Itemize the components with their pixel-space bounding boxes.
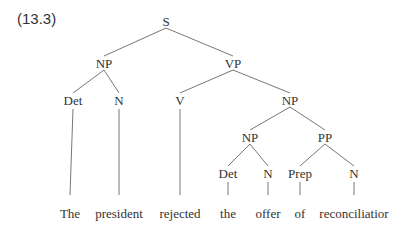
node-n2: N bbox=[263, 167, 272, 180]
edge-np2-pp bbox=[290, 107, 325, 130]
node-n3: N bbox=[349, 167, 358, 180]
edge-pp-n3 bbox=[325, 144, 354, 166]
node-n1: N bbox=[114, 94, 123, 107]
syntax-tree-diagram: (13.3) SNPVPDetNVNPNPPPDetNPrepNThepresi… bbox=[0, 0, 409, 233]
node-prep: Prep bbox=[288, 167, 312, 180]
leaf-edge bbox=[70, 109, 73, 195]
node-det1: Det bbox=[64, 94, 83, 107]
edge-np1-det1 bbox=[73, 70, 104, 93]
edge-np1-n1 bbox=[104, 70, 119, 93]
node-np2: NP bbox=[282, 94, 299, 107]
edge-np3-n2 bbox=[250, 144, 268, 166]
edge-s-np1 bbox=[104, 28, 166, 56]
edge-np2-np3 bbox=[250, 107, 290, 130]
leaf-word: president bbox=[95, 207, 143, 220]
node-np3: NP bbox=[242, 131, 259, 144]
node-s: S bbox=[162, 15, 169, 28]
leaf-word: reconciliatior bbox=[319, 207, 388, 220]
node-vp: VP bbox=[225, 57, 242, 70]
node-det2: Det bbox=[219, 167, 238, 180]
leaf-word: of bbox=[295, 207, 306, 220]
edge-pp-prep bbox=[300, 144, 325, 166]
node-pp: PP bbox=[318, 131, 332, 144]
node-np1: NP bbox=[96, 57, 113, 70]
node-v: V bbox=[175, 94, 184, 107]
leaf-word: The bbox=[60, 207, 80, 220]
edge-vp-v bbox=[180, 70, 233, 93]
edge-np3-det2 bbox=[228, 144, 250, 166]
leaf-word: the bbox=[220, 207, 236, 220]
edge-vp-np2 bbox=[233, 70, 290, 93]
leaf-word: offer bbox=[255, 207, 280, 220]
example-number: (13.3) bbox=[17, 10, 56, 27]
tree-edges bbox=[0, 0, 409, 233]
leaf-word: rejected bbox=[159, 207, 200, 220]
edge-s-vp bbox=[166, 28, 233, 56]
